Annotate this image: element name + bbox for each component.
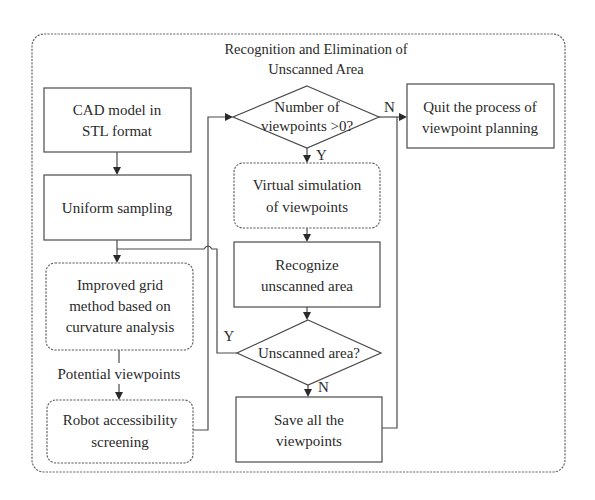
node-recognize-unscanned: Recognize unscanned area — [234, 242, 380, 307]
arrowhead — [304, 389, 312, 397]
arrowhead — [303, 155, 311, 163]
node-quit-process: Quit the process of viewpoint planning — [407, 84, 554, 148]
label-unscanned-no: N — [318, 379, 329, 395]
arrowhead — [115, 392, 123, 400]
node-quit-line-1: Quit the process of — [423, 99, 537, 115]
node-uniform-sampling: Uniform sampling — [44, 175, 191, 240]
node-improved-grid-line-3: curvature analysis — [66, 319, 175, 335]
arrowhead — [113, 167, 121, 175]
arrowhead — [303, 234, 311, 242]
edge-robot-to-decision — [193, 117, 226, 430]
node-save-viewpoints: Save all the viewpoints — [236, 397, 382, 462]
node-quit-line-2: viewpoint planning — [422, 120, 539, 136]
node-cad-model: CAD model in STL format — [44, 88, 191, 152]
node-virtual-line-1: Virtual simulation — [253, 177, 362, 193]
node-unscanned-label: Unscanned area? — [258, 345, 360, 361]
node-recognize-line-2: unscanned area — [261, 278, 353, 294]
arrowhead — [399, 113, 407, 121]
node-cad-model-line-2: STL format — [82, 123, 153, 139]
node-robot-accessibility: Robot accessibility screening — [47, 400, 193, 463]
node-unscanned-area-decision: Unscanned area? — [237, 320, 381, 385]
node-robot-accessibility-line-2: screening — [91, 434, 149, 450]
label-number-no: N — [384, 99, 395, 115]
edge-save-to-quit — [382, 117, 397, 428]
title-line-2: Unscanned Area — [268, 61, 364, 77]
node-robot-accessibility-line-1: Robot accessibility — [63, 412, 178, 428]
node-recognize-line-1: Recognize — [275, 257, 339, 273]
node-virtual-simulation: Virtual simulation of viewpoints — [234, 163, 380, 228]
node-uniform-sampling-label: Uniform sampling — [62, 200, 173, 216]
node-improved-grid: Improved grid method based on curvature … — [46, 263, 193, 350]
node-number-line-2: viewpoints >0? — [261, 118, 354, 134]
flowchart: Recognition and Elimination of Unscanned… — [0, 0, 595, 500]
arrowhead — [303, 312, 311, 320]
title-line-1: Recognition and Elimination of — [224, 41, 407, 57]
node-virtual-line-2: of viewpoints — [266, 199, 348, 215]
arrowhead — [113, 255, 121, 263]
node-improved-grid-line-1: Improved grid — [77, 277, 164, 293]
node-number-of-viewpoints-decision: Number of viewpoints >0? — [233, 86, 379, 148]
label-number-yes: Y — [316, 147, 327, 163]
label-unscanned-yes: Y — [224, 328, 235, 344]
node-save-line-1: Save all the — [274, 412, 344, 428]
node-number-line-1: Number of — [274, 99, 339, 115]
node-save-line-2: viewpoints — [276, 433, 342, 449]
node-improved-grid-line-2: method based on — [69, 298, 171, 314]
node-cad-model-line-1: CAD model in — [73, 102, 162, 118]
edge-label-potential-viewpoints: Potential viewpoints — [58, 366, 181, 382]
